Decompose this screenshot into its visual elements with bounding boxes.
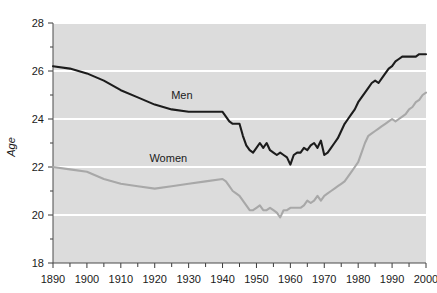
x-tick-label-1950: 1950 xyxy=(244,273,268,285)
x-tick-label-1930: 1930 xyxy=(176,273,200,285)
x-tick-label-1960: 1960 xyxy=(278,273,302,285)
x-tick-label-2000: 2000 xyxy=(414,273,437,285)
y-tick-label-28: 28 xyxy=(32,17,44,29)
y-tick-label-18: 18 xyxy=(32,257,44,269)
x-tick-label-1990: 1990 xyxy=(380,273,404,285)
line-chart-figure: 182022242628 189019001910192019301940195… xyxy=(0,0,437,293)
y-axis-title: Age xyxy=(5,137,17,158)
y-tick-label-24: 24 xyxy=(32,113,44,125)
y-tick-label-22: 22 xyxy=(32,161,44,173)
plot-area-background xyxy=(53,23,426,263)
chart-container: 182022242628 189019001910192019301940195… xyxy=(0,0,437,293)
series-label-men: Men xyxy=(171,89,192,101)
x-tick-label-1890: 1890 xyxy=(41,273,65,285)
y-tick-label-26: 26 xyxy=(32,65,44,77)
series-label-women: Women xyxy=(149,152,187,164)
y-tick-label-20: 20 xyxy=(32,209,44,221)
x-tick-label-1980: 1980 xyxy=(346,273,370,285)
x-tick-label-1900: 1900 xyxy=(75,273,99,285)
x-tick-label-1910: 1910 xyxy=(109,273,133,285)
x-tick-label-1970: 1970 xyxy=(312,273,336,285)
x-tick-label-1940: 1940 xyxy=(210,273,234,285)
x-tick-label-1920: 1920 xyxy=(142,273,166,285)
